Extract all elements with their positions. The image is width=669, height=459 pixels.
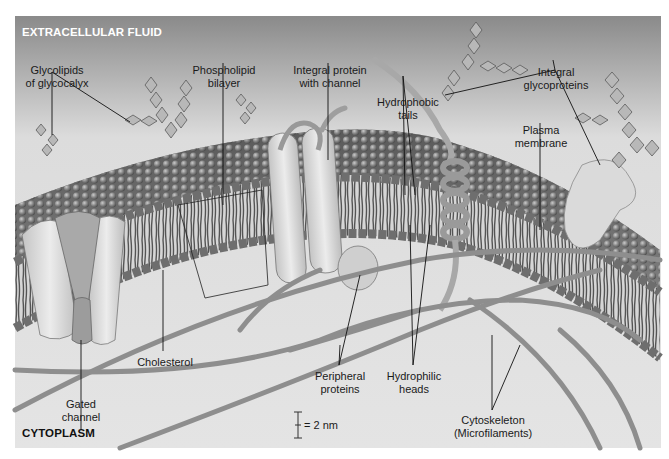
label-cytoskeleton: Cytoskeleton(Microfilaments) — [454, 414, 532, 440]
label-hydrophobic-tails: Hydrophobictails — [377, 96, 439, 122]
label-peripheral-proteins: Peripheralproteins — [315, 370, 365, 396]
label-integral-protein-channel: Integral proteinwith channel — [293, 64, 366, 90]
scale-bar-label: = 2 nm — [304, 419, 338, 431]
label-glycolipids: Glycolipidsof glycocalyx — [26, 64, 89, 90]
label-gated-channel: Gatedchannel — [62, 398, 101, 424]
label-cholesterol: Cholesterol — [137, 356, 193, 369]
membrane-diagram: EXTRACELLULAR FLUID CYTOPLASM Glycolipid… — [0, 0, 669, 459]
label-hydrophilic-heads: Hydrophilicheads — [387, 370, 441, 396]
region-label-extracellular: EXTRACELLULAR FLUID — [22, 26, 162, 38]
label-plasma-membrane: Plasmamembrane — [515, 124, 568, 150]
region-label-cytoplasm: CYTOPLASM — [22, 427, 95, 439]
label-integral-glycoproteins: Integralglycoproteins — [524, 66, 589, 92]
label-phospholipid-bilayer: Phospholipidbilayer — [193, 64, 256, 90]
